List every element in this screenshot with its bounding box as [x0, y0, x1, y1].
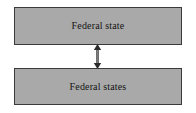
bidirectional-arrow-connector[interactable] [90, 44, 105, 69]
node-federal-state-label: Federal state [72, 21, 125, 31]
diagram-canvas: Federal state Federal states [0, 0, 196, 113]
node-federal-states[interactable]: Federal states [14, 68, 182, 105]
double-headed-arrow-icon [90, 44, 105, 69]
node-federal-state[interactable]: Federal state [14, 7, 182, 45]
node-federal-states-label: Federal states [70, 82, 127, 92]
